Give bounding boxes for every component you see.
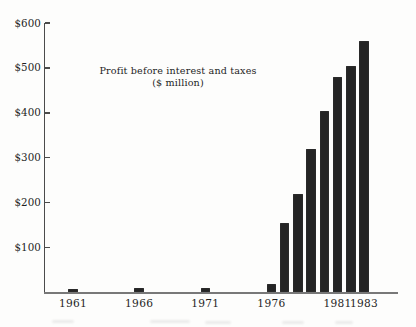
y-axis-tick-label: $300 [5, 151, 41, 164]
caption-fragment [150, 320, 190, 323]
y-axis-tick [45, 202, 50, 203]
bar-1976 [267, 284, 277, 293]
bar-1982 [346, 66, 356, 293]
bar-1980 [320, 111, 330, 293]
y-axis-tick-label: $500 [5, 61, 41, 74]
bar-1983 [359, 41, 369, 293]
bar-1979 [306, 149, 316, 293]
bar-1981 [333, 77, 343, 293]
x-axis-tick-label: 1961 [51, 297, 95, 310]
caption-fragment [282, 321, 304, 324]
y-axis-tick-label: $400 [5, 106, 41, 119]
y-axis-tick [45, 112, 50, 113]
y-axis-tick [45, 247, 50, 248]
x-axis-line [44, 292, 398, 294]
chart-title: Profit before interest and taxes [78, 65, 278, 77]
bar-1971 [201, 288, 211, 292]
bar-1961 [68, 289, 78, 293]
chart-title-block: Profit before interest and taxes ($ mill… [78, 65, 278, 88]
y-axis-tick [45, 157, 50, 158]
chart-subtitle: ($ million) [78, 77, 278, 88]
bar-1966 [134, 288, 144, 292]
x-axis-tick-label: 1971 [183, 297, 227, 310]
profit-bar-chart: Profit before interest and taxes ($ mill… [0, 0, 416, 327]
y-axis-tick [45, 22, 50, 23]
x-axis-tick-label: 1983 [342, 297, 386, 310]
y-axis-tick [45, 67, 50, 68]
caption-fragment [335, 321, 353, 324]
y-axis-tick-label: $200 [5, 196, 41, 209]
x-axis-tick-label: 1966 [117, 297, 161, 310]
y-axis-tick-label: $600 [5, 17, 41, 30]
caption-fragment [52, 320, 74, 323]
bar-1977 [280, 223, 290, 293]
y-axis-tick-label: $100 [5, 241, 41, 254]
x-axis-tick-label: 1976 [249, 297, 293, 310]
scanned-book-figure: Profit before interest and taxes ($ mill… [0, 0, 416, 327]
caption-fragment [205, 321, 231, 324]
bar-1978 [293, 194, 303, 293]
